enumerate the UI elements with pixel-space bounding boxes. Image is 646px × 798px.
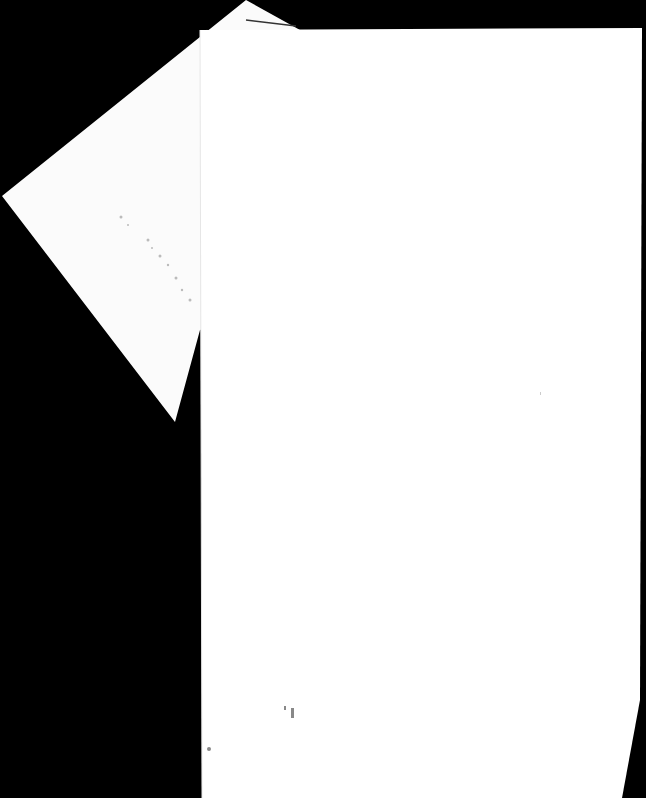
- front-paper-sheet: [200, 28, 642, 798]
- photo-scene: [0, 0, 646, 798]
